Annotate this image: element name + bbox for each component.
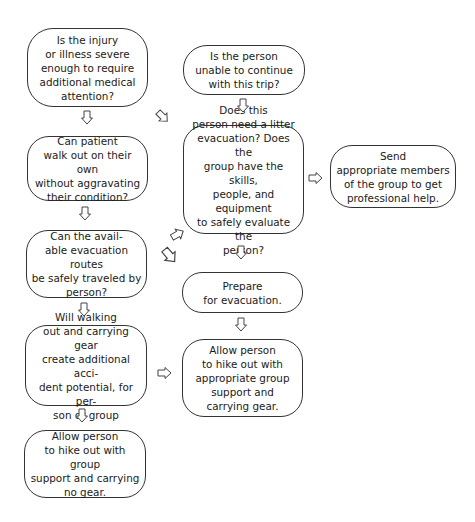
arrow-down-icon (80, 207, 91, 220)
arrow-down-icon (82, 111, 93, 124)
arrow-diagonal-icon (154, 108, 171, 125)
arrow-down-icon (77, 409, 88, 422)
arrow-down-icon (236, 246, 247, 259)
arrow-down-icon (236, 318, 247, 331)
arrow-right-icon (309, 173, 322, 184)
arrow-down-icon (79, 303, 90, 316)
arrow-down-icon (238, 99, 249, 112)
arrows-layer (0, 0, 475, 522)
arrow-right-icon (158, 368, 171, 379)
arrow-diagonal-icon (160, 245, 180, 265)
arrow-diagonal-icon (169, 226, 186, 242)
